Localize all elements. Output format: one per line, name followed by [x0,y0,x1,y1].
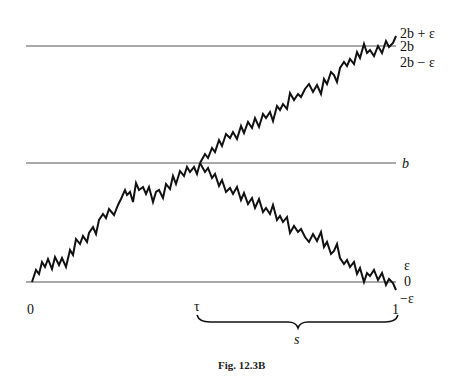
label-2b: 2b [400,40,414,54]
label-2b-minus-eps: 2b − ε [400,56,435,70]
s-interval-brace [197,315,398,328]
label-time-0: 0 [27,303,34,317]
label-tau: τ [194,300,200,314]
label-time-1: 1 [392,303,399,317]
label-minus-eps: −ε [400,292,414,306]
path-after-tau-reflected [200,163,396,290]
label-b: b [402,157,409,171]
label-zero-level: 0 [404,275,411,289]
path-before-tau [32,163,200,282]
label-s: s [294,333,299,347]
label-eps: ε [404,259,410,273]
figure-caption: Fig. 12.3B [218,359,265,371]
path-after-tau-original [200,36,396,163]
